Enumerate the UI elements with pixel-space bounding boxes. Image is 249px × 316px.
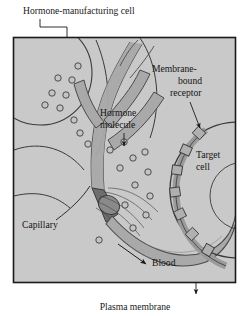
hormone-molecule xyxy=(69,77,75,83)
hormone-molecule xyxy=(85,141,91,147)
hormone-molecule xyxy=(57,105,63,111)
receptor-icon xyxy=(171,165,182,175)
hormone-molecule xyxy=(130,155,136,161)
figure-root: Hormone-manufacturing cell xyxy=(0,0,249,316)
hormone-molecule xyxy=(55,75,61,81)
label-capillary: Capillary xyxy=(22,219,58,230)
hormone-molecule xyxy=(42,102,48,108)
label-hormone-manufacturing-cell: Hormone-manufacturing cell xyxy=(23,5,135,16)
hormone-molecule xyxy=(107,147,113,153)
label-membrane-bound-receptor-line2: bound xyxy=(178,75,202,86)
hormone-molecule xyxy=(75,63,81,69)
label-hormone-molecule-line1: Hormone xyxy=(100,107,136,118)
hormone-molecule xyxy=(71,117,77,123)
hormone-molecule xyxy=(145,169,151,175)
hormone-molecule xyxy=(122,202,128,208)
hormone-molecule xyxy=(147,193,153,199)
hormone-molecule xyxy=(117,165,123,171)
label-blood: Blood xyxy=(152,257,176,268)
diagram-canvas: Hormone-manufacturing cell xyxy=(0,0,249,316)
hormone-molecule xyxy=(49,90,55,96)
hormone-molecule xyxy=(63,92,69,98)
receptor-icon xyxy=(169,187,180,197)
hormone-molecule xyxy=(143,212,149,218)
hormone-molecule xyxy=(96,237,102,243)
label-target-cell-line1: Target xyxy=(196,149,221,160)
hormone-molecule xyxy=(142,149,148,155)
label-membrane-bound-receptor-line1: Membrane- xyxy=(152,63,197,74)
label-membrane-bound-receptor-line3: receptor xyxy=(170,87,202,98)
hormone-molecule xyxy=(77,130,83,136)
label-hormone-molecule-line2: molecule xyxy=(100,119,135,130)
hormone-molecule xyxy=(132,182,138,188)
label-plasma-membrane: Plasma membrane xyxy=(100,301,171,312)
label-target-cell-line2: cell xyxy=(196,161,210,172)
hormone-molecule xyxy=(130,225,136,231)
